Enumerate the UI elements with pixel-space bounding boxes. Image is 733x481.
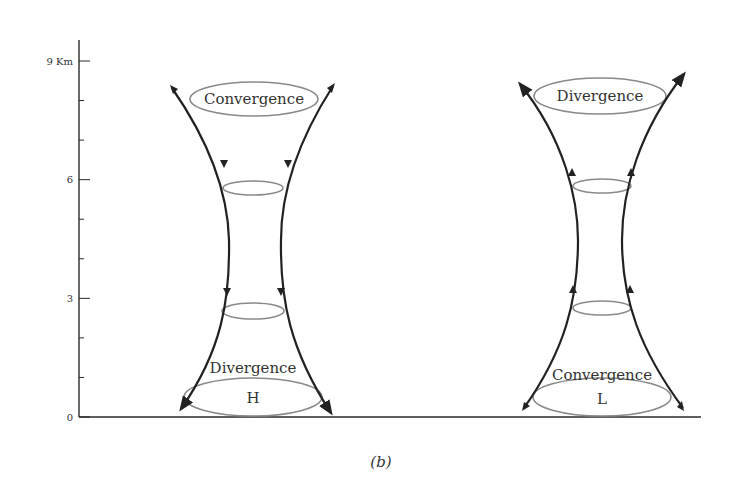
tick-label: 6	[67, 174, 73, 185]
arrowhead-icon	[522, 402, 530, 411]
bottom-label: Divergence	[210, 359, 297, 377]
arrowhead-icon	[170, 85, 178, 94]
flow-line-left-upper	[172, 88, 229, 240]
bottom-label: Convergence	[552, 366, 652, 384]
high-pressure-system: Convergence Divergence H	[170, 82, 335, 416]
lower-middle-ring	[222, 303, 284, 319]
arrow-down-icon	[284, 160, 292, 168]
top-label: Divergence	[557, 87, 644, 105]
center-label: L	[597, 390, 607, 408]
upper-middle-ring	[223, 181, 283, 195]
y-axis: 0369 Km	[47, 40, 91, 423]
diagram-canvas: 0369 Km Convergence Divergence H	[0, 0, 733, 481]
center-label: H	[246, 389, 259, 407]
tick-label: 3	[67, 293, 73, 304]
arrow-down-icon	[220, 160, 228, 168]
top-label: Convergence	[204, 90, 304, 108]
low-pressure-system: Divergence Convergence L	[520, 74, 684, 416]
arrow-up-icon	[568, 168, 576, 176]
upper-middle-ring	[573, 179, 631, 193]
arrow-down-icon	[223, 288, 231, 296]
arrowhead-icon	[327, 83, 335, 93]
tick-label: 9 Km	[47, 56, 74, 67]
tick-label: 0	[67, 412, 73, 423]
flow-line-right-lower	[281, 240, 331, 413]
figure-caption: (b)	[370, 453, 391, 471]
lower-middle-ring	[573, 301, 631, 315]
